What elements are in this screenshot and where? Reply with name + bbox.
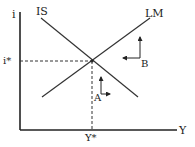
- point-b-label: B: [141, 58, 148, 69]
- point-a-label: A: [93, 92, 102, 103]
- lm-label: LM: [145, 7, 164, 20]
- is-label: IS: [36, 5, 48, 18]
- y-star-label: Y*: [84, 132, 97, 143]
- x-axis-label: Y: [178, 124, 187, 137]
- i-star-label: i*: [3, 55, 11, 66]
- is-lm-diagram: i Y IS LM i* Y* A B: [0, 0, 195, 147]
- y-axis-label: i: [12, 8, 16, 21]
